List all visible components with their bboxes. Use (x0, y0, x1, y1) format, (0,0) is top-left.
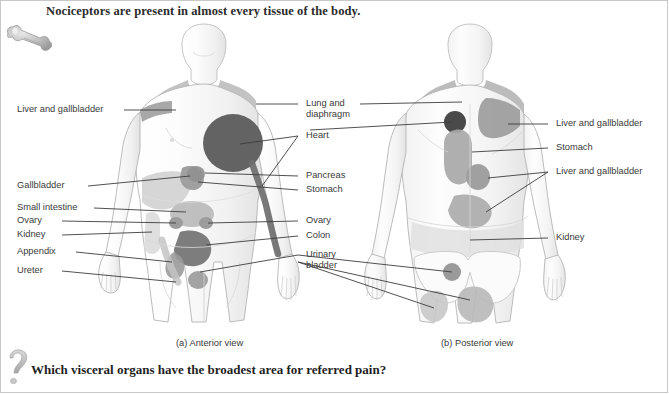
label-ureter: Ureter (17, 265, 43, 276)
label-kidney-left: Kidney (17, 229, 45, 240)
label-ovary-left: Ovary (17, 215, 42, 226)
label-appendix: Appendix (17, 246, 56, 257)
label-ovary-center: Ovary (306, 215, 331, 226)
label-lung-line2: diaphragm (306, 109, 350, 119)
label-liver-and-gallbladder-left: Liver and gallbladder (17, 104, 103, 115)
pain-region-kidney (144, 212, 160, 254)
label-urinary-bladder: Urinary bladder (306, 249, 337, 270)
label-liver-and-gallbladder-right-1: Liver and gallbladder (556, 118, 642, 129)
label-liver-and-gallbladder-right-2: Liver and gallbladder (556, 166, 642, 177)
caption-anterior-view: (a) Anterior view (176, 338, 243, 348)
label-colon: Colon (306, 230, 330, 241)
label-stomach-right: Stomach (556, 142, 593, 153)
figure-artwork (0, 0, 669, 394)
label-lung-and-diaphragm: Lung and diaphragm (306, 98, 350, 119)
label-heart: Heart (306, 130, 329, 141)
question-mark-icon (10, 350, 27, 384)
referred-pain-figure: Nociceptors are present in almost every … (0, 0, 669, 394)
review-question: Which visceral organs have the broadest … (31, 362, 386, 378)
label-stomach-center: Stomach (306, 184, 343, 195)
label-bladder-line2: bladder (306, 260, 337, 270)
label-small-intestine: Small intestine (17, 202, 77, 213)
figure-title: Nociceptors are present in almost every … (46, 4, 360, 19)
leader-kidney-left (62, 232, 152, 235)
label-lung-line1: Lung and (306, 98, 345, 108)
caption-posterior-view: (b) Posterior view (441, 338, 513, 348)
label-kidney-right: Kidney (556, 232, 584, 243)
label-pancreas: Pancreas (306, 170, 345, 181)
bone-icon (7, 26, 51, 51)
pain-region-pancreas (187, 166, 205, 182)
label-gallbladder: Gallbladder (17, 180, 65, 191)
label-bladder-line1: Urinary (306, 249, 336, 259)
pain-region-urinary-bladder (188, 271, 208, 289)
